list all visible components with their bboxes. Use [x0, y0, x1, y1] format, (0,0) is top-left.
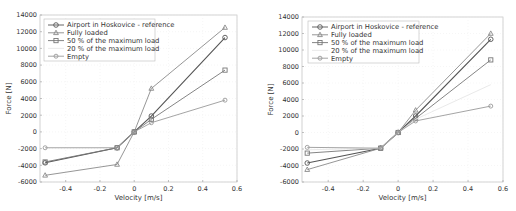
figure: 14000120001000080006000400020000-2000-40…	[0, 0, 516, 211]
y-tick-label: 4000	[20, 95, 37, 103]
legend: Airport in Hoskovice - referenceFully lo…	[308, 21, 439, 63]
chart-2: 14000120001000080006000400020000-2000-40…	[267, 13, 508, 202]
x-tick-label: -0.4	[59, 185, 72, 193]
x-axis-label: Velocity [m/s]	[379, 194, 427, 202]
x-tick-label: 0.4	[198, 185, 208, 193]
y-tick-label: 14000	[16, 11, 37, 19]
x-tick-label: 0.2	[428, 185, 438, 193]
y-tick-label: 8000	[282, 63, 299, 71]
y-tick-label: 2000	[20, 112, 37, 120]
y-tick-label: 4000	[282, 96, 299, 104]
y-tick-label: 12000	[16, 28, 37, 36]
y-tick-label: 12000	[278, 30, 299, 38]
legend-label: 20 % of the maximum load	[331, 47, 423, 55]
chart-1: 14000120001000080006000400020000-2000-40…	[5, 11, 242, 202]
x-tick-label: 0	[132, 185, 136, 193]
legend-label: Empty	[331, 55, 353, 63]
x-tick-label: -0.4	[322, 185, 335, 193]
legend-label: Fully loaded	[67, 29, 108, 37]
legend-label: 50 % of the maximum load	[67, 37, 159, 45]
y-tick-label: 0	[33, 128, 37, 136]
y-tick-label: 10000	[16, 45, 37, 53]
y-tick-label: 6000	[282, 79, 299, 87]
legend-label: Airport in Hoskovice - reference	[67, 21, 175, 29]
y-tick-label: 2000	[282, 112, 299, 120]
y-tick-label: -6000	[280, 178, 299, 186]
x-tick-label: 0	[396, 185, 400, 193]
y-tick-label: 0	[295, 129, 299, 137]
y-tick-label: -6000	[18, 178, 37, 186]
y-tick-label: -4000	[18, 162, 37, 170]
x-tick-label: 0.6	[232, 185, 242, 193]
legend-label: 20 % of the maximum load	[67, 45, 159, 53]
charts-canvas: 14000120001000080006000400020000-2000-40…	[0, 0, 516, 211]
y-tick-label: 6000	[20, 78, 37, 86]
legend-label: Airport in Hoskovice - reference	[331, 23, 439, 31]
y-tick-label: -2000	[280, 145, 299, 153]
x-tick-label: 0.4	[463, 185, 473, 193]
x-tick-label: 0.2	[163, 185, 173, 193]
x-tick-label: -0.2	[94, 185, 107, 193]
y-tick-label: 8000	[20, 61, 37, 69]
y-tick-label: -2000	[18, 145, 37, 153]
x-axis-label: Velocity [m/s]	[115, 194, 163, 202]
legend-label: 50 % of the maximum load	[331, 39, 423, 47]
y-tick-label: 14000	[278, 13, 299, 21]
x-tick-label: -0.2	[357, 185, 370, 193]
legend: Airport in Hoskovice - referenceFully lo…	[44, 19, 175, 61]
y-tick-label: -4000	[280, 162, 299, 170]
y-tick-label: 10000	[278, 46, 299, 54]
y-axis-label: Force [N]	[267, 83, 275, 115]
legend-label: Fully loaded	[331, 31, 372, 39]
y-axis-label: Force [N]	[5, 82, 13, 114]
legend-label: Empty	[67, 53, 89, 61]
x-tick-label: 0.6	[498, 185, 508, 193]
